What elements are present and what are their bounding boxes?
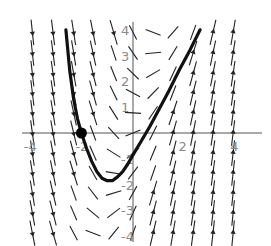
arrowhead-icon — [230, 189, 235, 194]
field-segment — [106, 191, 121, 196]
field-segment — [109, 227, 119, 239]
field-segment — [86, 230, 101, 236]
arrowhead-icon — [90, 52, 95, 57]
y-tick-label: 4 — [121, 23, 129, 38]
field-segment — [71, 206, 77, 221]
x-tick-label: -4 — [24, 139, 37, 154]
y-tick-label: -3 — [121, 203, 134, 218]
arrowhead-icon — [190, 189, 195, 194]
field-segment — [111, 45, 116, 60]
field-segment — [88, 187, 98, 200]
arrowhead-icon — [90, 72, 95, 77]
arrowhead-icon — [30, 52, 35, 57]
arrowhead-icon — [90, 92, 95, 97]
field-segment — [71, 186, 76, 201]
arrowhead-icon — [170, 209, 175, 214]
arrowhead-icon — [170, 149, 175, 154]
arrowhead-icon — [150, 189, 155, 194]
field-segment — [107, 208, 120, 218]
arrowhead-icon — [210, 109, 215, 114]
arrowhead-icon — [230, 169, 235, 174]
arrowhead-icon — [190, 109, 195, 114]
arrowhead-icon — [210, 89, 215, 94]
arrowhead-icon — [190, 70, 195, 75]
arrowhead-icon — [190, 149, 195, 154]
arrowhead-icon — [71, 31, 76, 36]
field-segment — [107, 149, 121, 158]
arrowhead-icon — [210, 229, 215, 234]
field-segment — [146, 70, 160, 78]
arrowhead-icon — [111, 31, 116, 36]
field-segment — [70, 226, 78, 240]
field-segment — [151, 165, 156, 180]
arrowhead-icon — [50, 232, 55, 237]
x-tick-label: 2 — [179, 139, 187, 154]
y-tick-label: -4 — [121, 229, 134, 244]
arrowhead-icon — [150, 229, 155, 234]
arrowhead-icon — [230, 229, 235, 234]
arrowhead-icon — [170, 129, 175, 134]
initial-point-marker — [76, 128, 87, 139]
arrowhead-icon — [210, 129, 215, 134]
arrowhead-icon — [30, 172, 35, 177]
arrowhead-icon — [50, 192, 55, 197]
arrowhead-icon — [210, 29, 215, 34]
arrowhead-icon — [230, 209, 235, 214]
y-tick-label: 2 — [121, 74, 129, 89]
arrowhead-icon — [30, 192, 35, 197]
arrowhead-icon — [50, 212, 55, 217]
arrowhead-icon — [190, 89, 195, 94]
field-segment — [168, 26, 178, 38]
arrowhead-icon — [30, 232, 35, 237]
y-tick-label: 3 — [121, 49, 129, 64]
arrowhead-icon — [170, 169, 175, 174]
arrowhead-icon — [170, 189, 175, 194]
arrowhead-icon — [71, 52, 76, 57]
arrowhead-icon — [30, 31, 35, 36]
arrowhead-icon — [230, 29, 235, 34]
y-tick-label: -2 — [121, 178, 134, 193]
arrowhead-icon — [210, 70, 215, 75]
arrowhead-icon — [90, 31, 95, 36]
arrowhead-icon — [30, 92, 35, 97]
arrowhead-icon — [230, 49, 235, 54]
axes — [22, 22, 262, 242]
field-segment — [148, 87, 159, 98]
field-segment — [146, 30, 161, 36]
arrowhead-icon — [30, 73, 35, 78]
arrowhead-icon — [50, 172, 55, 177]
arrowhead-icon — [50, 152, 55, 157]
arrowhead-icon — [150, 209, 155, 214]
field-segment — [111, 66, 117, 81]
field-segment — [87, 208, 99, 218]
x-tick-label: 4 — [230, 139, 238, 154]
field-segment — [169, 46, 177, 60]
field-segment — [109, 106, 118, 119]
arrowhead-icon — [50, 112, 55, 117]
arrowhead-icon — [190, 169, 195, 174]
arrowhead-icon — [30, 212, 35, 217]
y-tick-label: 1 — [121, 100, 129, 115]
slope-field-diagram: 4321-1-2-3-4-4-224 — [0, 0, 271, 246]
field-segment — [110, 86, 117, 100]
arrowhead-icon — [210, 209, 215, 214]
field-segment — [150, 146, 156, 161]
arrowhead-icon — [210, 49, 215, 54]
field-segment — [145, 52, 161, 54]
arrowhead-icon — [170, 229, 175, 234]
